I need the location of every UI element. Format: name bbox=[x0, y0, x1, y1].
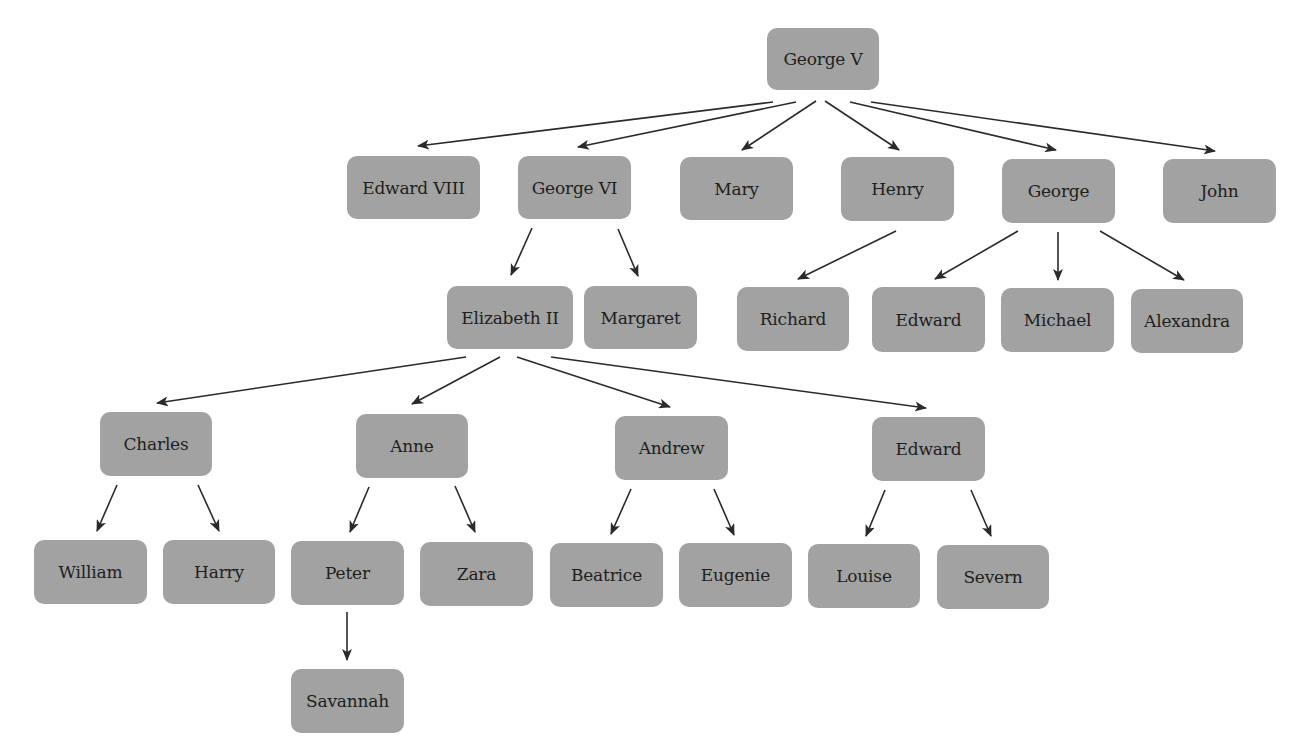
node-edward-viii: Edward VIII bbox=[347, 156, 480, 219]
edge-henry-to-richard bbox=[798, 231, 896, 279]
node-label: George bbox=[1028, 181, 1090, 201]
edge-elizabeth-ii-to-edward bbox=[551, 357, 926, 408]
edge-layer bbox=[0, 0, 1295, 755]
edge-george-v-to-george bbox=[850, 102, 1056, 150]
edge-charles-to-harry bbox=[198, 485, 219, 531]
node-andrew: Andrew bbox=[615, 416, 728, 480]
edge-george-to-alexandra bbox=[1100, 231, 1184, 280]
edge-george-v-to-john bbox=[871, 102, 1215, 151]
edge-george-to-edward-kent bbox=[935, 231, 1018, 279]
edge-edward-to-severn bbox=[971, 490, 991, 536]
edge-andrew-to-eugenie bbox=[714, 489, 734, 535]
node-label: Edward bbox=[896, 439, 962, 459]
node-savannah: Savannah bbox=[291, 669, 404, 733]
node-label: Michael bbox=[1024, 310, 1092, 330]
node-anne: Anne bbox=[356, 414, 468, 478]
node-george-vi: George VI bbox=[518, 156, 631, 219]
node-label: George V bbox=[783, 49, 862, 69]
edge-elizabeth-ii-to-charles bbox=[157, 357, 466, 403]
edge-george-v-to-mary bbox=[742, 101, 816, 150]
node-label: Edward bbox=[896, 310, 962, 330]
edge-george-v-to-henry bbox=[825, 101, 899, 150]
node-label: Anne bbox=[390, 436, 433, 456]
node-alexandra: Alexandra bbox=[1131, 289, 1243, 353]
node-richard: Richard bbox=[737, 287, 849, 351]
node-label: Savannah bbox=[306, 691, 389, 711]
node-severn: Severn bbox=[937, 545, 1049, 609]
node-beatrice: Beatrice bbox=[550, 543, 663, 607]
edge-elizabeth-ii-to-anne bbox=[412, 357, 500, 404]
node-label: Henry bbox=[871, 179, 924, 199]
node-charles: Charles bbox=[100, 412, 212, 476]
node-label: George VI bbox=[532, 178, 618, 198]
node-label: Andrew bbox=[639, 438, 705, 458]
node-label: Margaret bbox=[600, 308, 680, 328]
family-tree-diagram: George VEdward VIIIGeorge VIMaryHenryGeo… bbox=[0, 0, 1295, 755]
node-label: John bbox=[1200, 181, 1238, 201]
node-edward: Edward bbox=[872, 417, 985, 481]
edge-anne-to-zara bbox=[455, 486, 475, 532]
node-label: Elizabeth II bbox=[461, 308, 559, 328]
node-william: William bbox=[34, 540, 147, 604]
node-peter: Peter bbox=[291, 541, 404, 605]
node-zara: Zara bbox=[420, 542, 533, 606]
edge-george-v-to-george-vi bbox=[578, 102, 796, 147]
node-elizabeth-ii: Elizabeth II bbox=[447, 286, 573, 349]
edge-edward-to-louise bbox=[866, 490, 885, 536]
node-label: William bbox=[59, 562, 123, 582]
node-label: Alexandra bbox=[1144, 311, 1230, 331]
node-edward-kent: Edward bbox=[872, 287, 985, 352]
node-louise: Louise bbox=[808, 544, 920, 608]
node-harry: Harry bbox=[163, 540, 275, 604]
node-label: Beatrice bbox=[571, 565, 642, 585]
node-george: George bbox=[1002, 159, 1115, 223]
node-john: John bbox=[1163, 159, 1276, 223]
node-label: Harry bbox=[194, 562, 244, 582]
edge-charles-to-william bbox=[97, 485, 117, 531]
node-label: Edward VIII bbox=[362, 178, 465, 198]
edge-george-vi-to-elizabeth-ii bbox=[511, 228, 532, 275]
edge-george-v-to-edward-viii bbox=[418, 102, 773, 146]
node-george-v: George V bbox=[767, 28, 879, 90]
edge-george-vi-to-margaret bbox=[618, 229, 638, 276]
edge-elizabeth-ii-to-andrew bbox=[517, 357, 670, 407]
node-label: Eugenie bbox=[701, 565, 770, 585]
node-mary: Mary bbox=[680, 157, 793, 220]
node-label: Charles bbox=[123, 434, 188, 454]
node-label: Louise bbox=[836, 566, 892, 586]
node-label: Peter bbox=[325, 563, 370, 583]
node-henry: Henry bbox=[841, 157, 954, 221]
node-michael: Michael bbox=[1001, 288, 1114, 352]
node-label: Severn bbox=[963, 567, 1022, 587]
node-label: Richard bbox=[760, 309, 826, 329]
node-eugenie: Eugenie bbox=[679, 543, 792, 607]
node-label: Mary bbox=[714, 179, 758, 199]
node-label: Zara bbox=[457, 564, 496, 584]
node-margaret: Margaret bbox=[584, 286, 697, 349]
edge-andrew-to-beatrice bbox=[611, 489, 631, 534]
edge-anne-to-peter bbox=[350, 487, 369, 532]
